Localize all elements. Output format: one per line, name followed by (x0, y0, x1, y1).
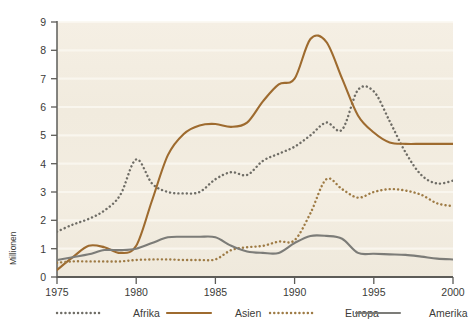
y-tick-label: 3 (40, 186, 46, 198)
y-tick-label: 1 (40, 243, 46, 255)
line-chart-migration: 9 8 7 6 5 4 3 2 1 0 Millionen 1975 1980 … (0, 0, 475, 335)
y-tick-label: 5 (40, 129, 46, 141)
x-tick-label: 1975 (45, 286, 69, 298)
y-tick-label: 4 (40, 158, 46, 170)
y-tick-label: 2 (40, 214, 46, 226)
x-tick-label: 1990 (283, 286, 307, 298)
y-tick-label: 6 (40, 101, 46, 113)
legend-label-asien: Asien (235, 307, 261, 319)
chart-canvas: 9 8 7 6 5 4 3 2 1 0 Millionen 1975 1980 … (0, 0, 475, 335)
y-tick-label: 8 (40, 44, 46, 56)
x-tick-label: 1995 (362, 286, 386, 298)
legend-label-afrika: Afrika (133, 307, 160, 319)
plot-background (57, 22, 453, 277)
y-tick-label: 9 (40, 16, 46, 28)
x-tick-label: 1980 (125, 286, 149, 298)
x-tick-label: 1985 (204, 286, 228, 298)
x-tick-label: 2000 (441, 286, 465, 298)
y-axis-title: Millionen (8, 231, 18, 265)
legend-label-amerika: Amerika (429, 307, 468, 319)
y-tick-label: 0 (40, 271, 46, 283)
y-tick-label: 7 (40, 73, 46, 85)
